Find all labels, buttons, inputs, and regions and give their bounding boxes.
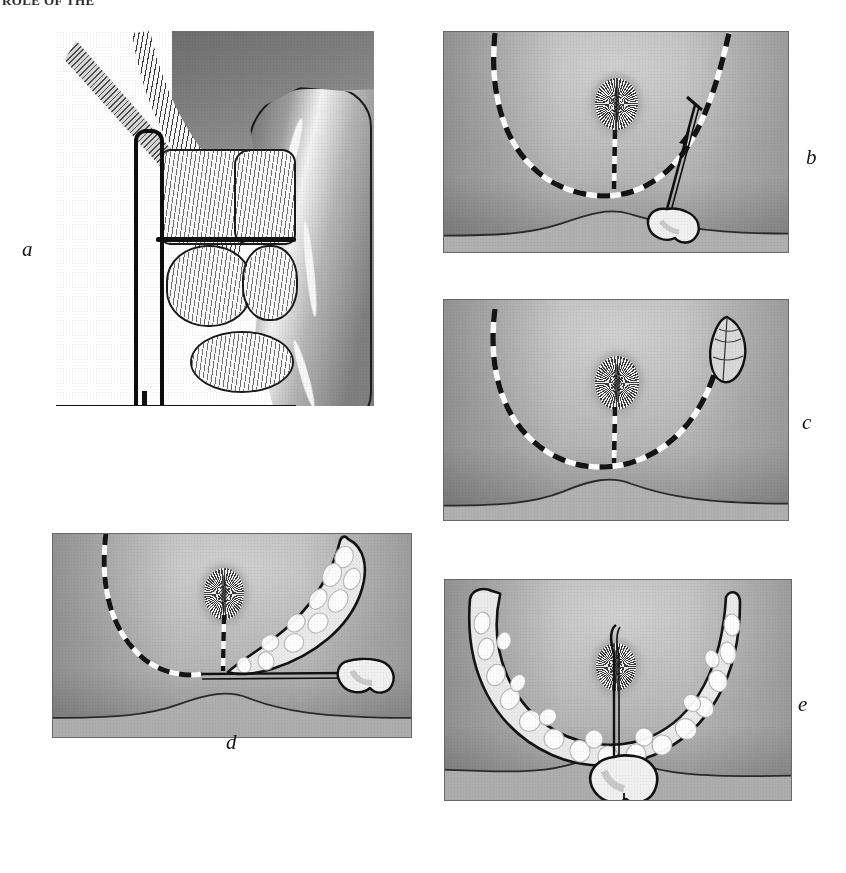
panel-label-d: d	[226, 730, 237, 755]
sphincter-block	[166, 245, 252, 327]
panel-label-e: e	[798, 692, 807, 717]
panel-b-border	[443, 31, 789, 253]
panel-e-plate	[444, 579, 792, 801]
panel-d-border	[52, 533, 412, 738]
intersphincteric-plane-line	[156, 237, 296, 242]
sphincter-block	[234, 149, 296, 245]
figure-panel-c	[443, 299, 789, 521]
panel-a-plate	[56, 31, 374, 406]
panel-label-c: c	[802, 410, 811, 435]
panel-a-baseline	[56, 405, 296, 406]
figure-panel-b	[443, 31, 789, 253]
panel-c-border	[443, 299, 789, 521]
figure-panel-d	[52, 533, 412, 738]
panel-label-a: a	[22, 237, 33, 262]
retractor-instrument-icon	[134, 129, 164, 406]
figure-panel-e	[444, 579, 792, 801]
panel-d-plate	[52, 533, 412, 738]
sphincter-block	[190, 331, 294, 393]
panel-e-border	[444, 579, 792, 801]
panel-label-b: b	[806, 145, 817, 170]
panel-b-plate	[443, 31, 789, 253]
retractor-shaft	[142, 391, 147, 406]
sphincter-block	[242, 245, 298, 321]
panel-c-plate	[443, 299, 789, 521]
running-head: ROLE OF THE	[2, 0, 95, 9]
figure-panel-a	[56, 31, 374, 406]
